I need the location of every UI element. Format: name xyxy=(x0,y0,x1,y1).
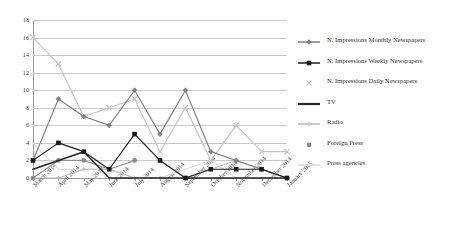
line-plus-marker-icon xyxy=(296,116,322,128)
legend-item-3[interactable]: TV xyxy=(296,92,449,113)
legend-item-5[interactable]: Foreign Press xyxy=(296,133,449,154)
legend-item-0[interactable]: N. Impressions Monthly Newspapers xyxy=(296,30,449,51)
legend-item-2[interactable]: N. Impressions Daily Newspapers xyxy=(296,71,449,92)
legend-item-1[interactable]: N. Impressions Weekly Newspapers xyxy=(296,51,449,72)
legend-label: N. Impressions Monthly Newspapers xyxy=(327,36,425,44)
chart-series-svg xyxy=(0,0,300,235)
cross-marker-icon xyxy=(296,75,322,87)
legend-item-6[interactable]: Press agencies xyxy=(296,153,449,174)
line-diamond-marker-icon xyxy=(296,34,322,46)
legend-label: Press agencies xyxy=(327,159,365,167)
thick-line-icon xyxy=(296,96,322,108)
legend-label: N. Impressions Weekly Newspapers xyxy=(327,57,422,65)
series-2 xyxy=(30,35,289,163)
legend-item-4[interactable]: Radio xyxy=(296,112,449,133)
plain-line-icon xyxy=(296,157,322,169)
legend-label: Radio xyxy=(327,118,343,126)
circle-marker-icon xyxy=(296,137,322,149)
plot-area: 024681012141618 March 2014April 2014May … xyxy=(0,0,300,235)
legend-label: Foreign Press xyxy=(327,139,363,147)
chart-legend: N. Impressions Monthly NewspapersN. Impr… xyxy=(296,30,449,174)
chart-page: 024681012141618 March 2014April 2014May … xyxy=(0,0,449,235)
legend-label: N. Impressions Daily Newspapers xyxy=(327,77,417,85)
series-0 xyxy=(30,87,290,180)
legend-label: TV xyxy=(327,98,336,106)
line-square-marker-icon xyxy=(296,55,322,67)
